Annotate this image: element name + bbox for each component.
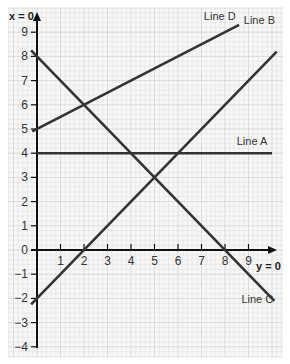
x-tick-label: 3 (104, 254, 111, 268)
x-tick-label: 5 (151, 254, 158, 268)
y-tick-label: 0 (21, 243, 28, 257)
y-tick-label: 6 (21, 98, 28, 112)
y-tick-label: 2 (21, 195, 28, 209)
y-tick-label: 1 (21, 219, 28, 233)
y-tick-label: 9 (21, 25, 28, 39)
plot-background (8, 8, 283, 358)
label-line-a: Line A (237, 135, 268, 147)
label-line-d: Line D (204, 10, 236, 22)
y-tick-label: 7 (21, 74, 28, 88)
y-tick-label: 5 (21, 122, 28, 136)
x-tick-label: 8 (222, 254, 229, 268)
y-tick-label: −1 (14, 267, 28, 281)
y-tick-label: 4 (21, 146, 28, 160)
y-tick-label: −3 (14, 316, 28, 330)
y-tick-label: −2 (14, 291, 28, 305)
x-tick-label: 6 (175, 254, 182, 268)
y-tick-label: 3 (21, 170, 28, 184)
x-tick-label: 2 (81, 254, 88, 268)
x-tick-label: 4 (128, 254, 135, 268)
x-tick-label: 9 (245, 254, 252, 268)
x-axis-title: y = 0 (256, 260, 281, 272)
y-axis-title: x = 0 (9, 10, 34, 22)
y-tick-label: −4 (14, 340, 28, 354)
x-tick-label: 7 (198, 254, 205, 268)
y-tick-label: 8 (21, 49, 28, 63)
label-line-b: Line B (244, 14, 275, 26)
x-tick-label: 1 (57, 254, 64, 268)
label-line-c: Line C (241, 293, 273, 305)
line-chart: −4−3−2−10123456789123456789 Line ALine B… (0, 0, 290, 364)
